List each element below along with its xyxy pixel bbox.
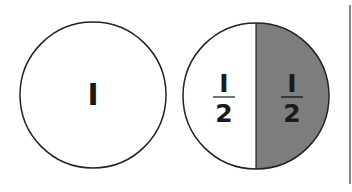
halved-circle: I 2 I 2 (183, 23, 329, 169)
right-numerator: I (287, 69, 296, 98)
right-denominator: 2 (283, 99, 300, 128)
whole-label: I (87, 77, 98, 112)
left-half-fraction: I 2 (213, 69, 235, 128)
whole-circle: I (20, 22, 166, 168)
left-denominator: 2 (215, 99, 232, 128)
fraction-diagram: I I 2 I 2 (0, 0, 352, 192)
left-numerator: I (219, 69, 228, 98)
